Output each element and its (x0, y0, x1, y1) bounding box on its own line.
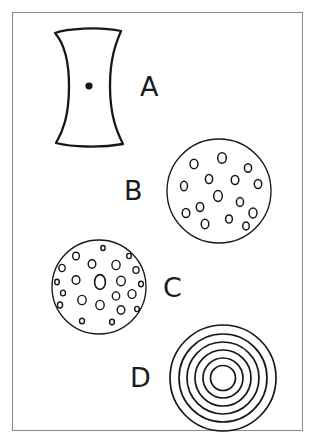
panel-label-a: A (140, 71, 159, 102)
figure-panel: Line drawing of four labelled items A, B… (0, 0, 315, 443)
panel-label-b: B (124, 175, 143, 206)
panel-label-c: C (163, 272, 182, 303)
panel-label-d: D (130, 362, 151, 393)
hourglass-center-dot (85, 83, 92, 90)
figure-canvas: A B C D (0, 0, 315, 443)
